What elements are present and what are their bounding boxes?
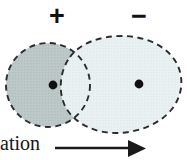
axis-caption-text: ation: [0, 133, 40, 153]
negative-charge-label: −: [122, 3, 156, 30]
positive-charge-label: +: [40, 3, 74, 30]
negative-nucleus-dot: [135, 80, 144, 89]
polarization-figure: + − ation: [0, 0, 187, 160]
positive-nucleus-dot: [49, 81, 58, 90]
polarization-axis-arrow: [55, 140, 146, 157]
